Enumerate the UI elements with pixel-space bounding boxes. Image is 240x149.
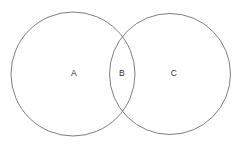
region-label-a: A — [71, 68, 77, 78]
venn-diagram-figure: A B C — [0, 0, 240, 149]
region-label-b: B — [119, 68, 125, 78]
venn-diagram-canvas: A B C — [0, 0, 240, 149]
region-label-c: C — [171, 68, 177, 78]
